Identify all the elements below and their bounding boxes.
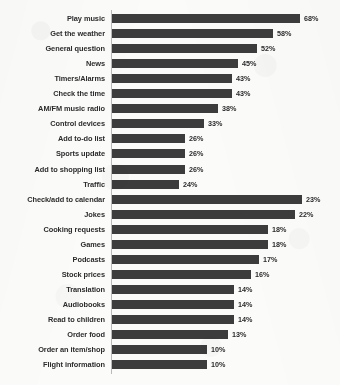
bar-value-label: 33%	[208, 118, 222, 129]
bar-value-label: 26%	[189, 133, 203, 144]
bar	[112, 210, 295, 219]
category-label: Check the time	[0, 88, 105, 99]
bar-value-label: 14%	[238, 284, 252, 295]
category-label: Order food	[0, 329, 105, 340]
bar-row: Control devices33%	[0, 118, 340, 129]
bar	[112, 300, 234, 309]
bar	[112, 255, 259, 264]
bar-row: News45%	[0, 58, 340, 69]
category-label: Translation	[0, 284, 105, 295]
bar-row: Get the weather58%	[0, 28, 340, 39]
bar-row: Timers/Alarms43%	[0, 73, 340, 84]
bar-row: Add to-do list26%	[0, 133, 340, 144]
bar-value-label: 58%	[277, 28, 291, 39]
bar	[112, 165, 185, 174]
category-label: Order an item/shop	[0, 344, 105, 355]
bar-value-label: 14%	[238, 299, 252, 310]
category-label: Cooking requests	[0, 224, 105, 235]
bar	[112, 285, 234, 294]
bar	[112, 89, 232, 98]
bar-value-label: 10%	[211, 359, 225, 370]
category-label: Add to-do list	[0, 133, 105, 144]
category-label: Podcasts	[0, 254, 105, 265]
bar	[112, 134, 185, 143]
bar-value-label: 45%	[242, 58, 256, 69]
bar-row: Jokes22%	[0, 209, 340, 220]
bar-row: Traffic24%	[0, 179, 340, 190]
bar	[112, 315, 234, 324]
bar	[112, 74, 232, 83]
bar-row: AM/FM music radio38%	[0, 103, 340, 114]
category-label: News	[0, 58, 105, 69]
bar-row: Read to children14%	[0, 314, 340, 325]
bar	[112, 104, 218, 113]
bar-value-label: 13%	[232, 329, 246, 340]
horizontal-bar-chart: Play music68%Get the weather58%General q…	[0, 0, 340, 385]
category-label: General question	[0, 43, 105, 54]
category-label: Sports update	[0, 148, 105, 159]
bar-row: Sports update26%	[0, 148, 340, 159]
bar-row: Order an item/shop10%	[0, 344, 340, 355]
bar-row: Check/add to calendar23%	[0, 194, 340, 205]
bar-row: Order food13%	[0, 329, 340, 340]
category-label: Flight information	[0, 359, 105, 370]
bar-value-label: 24%	[183, 179, 197, 190]
bar	[112, 29, 273, 38]
bar-row: Check the time43%	[0, 88, 340, 99]
category-label: Control devices	[0, 118, 105, 129]
category-label: Get the weather	[0, 28, 105, 39]
bar-row: Games18%	[0, 239, 340, 250]
bar-row: Stock prices16%	[0, 269, 340, 280]
bar	[112, 180, 179, 189]
category-label: Check/add to calendar	[0, 194, 105, 205]
bar-value-label: 16%	[255, 269, 269, 280]
bar-row: Add to shopping list26%	[0, 164, 340, 175]
category-label: Audiobooks	[0, 299, 105, 310]
bar-value-label: 18%	[272, 224, 286, 235]
bar-value-label: 68%	[304, 13, 318, 24]
bar	[112, 59, 238, 68]
bar	[112, 195, 302, 204]
bar-row: Flight information10%	[0, 359, 340, 370]
category-label: Play music	[0, 13, 105, 24]
bar-value-label: 18%	[272, 239, 286, 250]
bar-value-label: 52%	[261, 43, 275, 54]
bar-row: Cooking requests18%	[0, 224, 340, 235]
category-label: Timers/Alarms	[0, 73, 105, 84]
category-label: Games	[0, 239, 105, 250]
bar-row: Podcasts17%	[0, 254, 340, 265]
bar-value-label: 22%	[299, 209, 313, 220]
bar-row: Translation14%	[0, 284, 340, 295]
bar	[112, 225, 268, 234]
category-label: Stock prices	[0, 269, 105, 280]
bar-value-label: 26%	[189, 164, 203, 175]
category-label: Traffic	[0, 179, 105, 190]
bar	[112, 119, 204, 128]
bar-row: General question52%	[0, 43, 340, 54]
bar-row: Play music68%	[0, 13, 340, 24]
bar-value-label: 43%	[236, 73, 250, 84]
bar-value-label: 38%	[222, 103, 236, 114]
bar	[112, 149, 185, 158]
bar	[112, 44, 257, 53]
bar	[112, 330, 228, 339]
bar	[112, 360, 207, 369]
bar-row: Audiobooks14%	[0, 299, 340, 310]
bar	[112, 345, 207, 354]
category-label: Add to shopping list	[0, 164, 105, 175]
bar-value-label: 17%	[263, 254, 277, 265]
bar-value-label: 43%	[236, 88, 250, 99]
bar	[112, 14, 300, 23]
bar-value-label: 23%	[306, 194, 320, 205]
category-axis-line	[111, 10, 112, 374]
category-label: Read to children	[0, 314, 105, 325]
category-label: Jokes	[0, 209, 105, 220]
category-label: AM/FM music radio	[0, 103, 105, 114]
bar	[112, 270, 251, 279]
bar	[112, 240, 268, 249]
bar-value-label: 14%	[238, 314, 252, 325]
bar-value-label: 26%	[189, 148, 203, 159]
bar-value-label: 10%	[211, 344, 225, 355]
